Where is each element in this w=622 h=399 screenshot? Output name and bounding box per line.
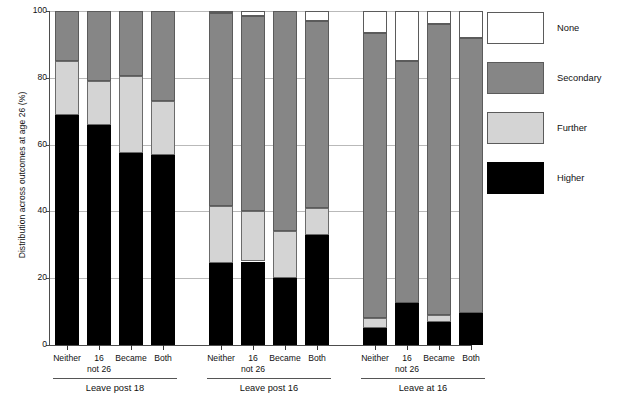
y-axis-tick-label: 100 bbox=[7, 5, 47, 15]
bar-segment-none bbox=[427, 11, 451, 24]
legend-item[interactable]: None bbox=[487, 12, 579, 44]
stacked-bar bbox=[151, 11, 175, 345]
bar-segment-none bbox=[459, 11, 483, 38]
bar-segment-further bbox=[427, 315, 451, 322]
group-label: Leave post 18 bbox=[45, 383, 185, 393]
y-axis-tick-label: 40 bbox=[7, 205, 47, 215]
x-axis-tick-mark bbox=[131, 345, 132, 350]
bar-segment-further bbox=[87, 81, 111, 124]
y-axis-tick-label: 0 bbox=[7, 339, 47, 349]
bar-segment-none bbox=[209, 11, 233, 13]
x-axis-tick-mark bbox=[407, 345, 408, 350]
bar-segment-higher bbox=[55, 115, 79, 345]
stacked-bar bbox=[241, 11, 265, 345]
bar-segment-secondary bbox=[273, 11, 297, 231]
legend-item[interactable]: Higher bbox=[487, 162, 584, 194]
bar-segment-higher bbox=[273, 278, 297, 345]
group-underline bbox=[361, 378, 485, 379]
bar-segment-higher bbox=[209, 263, 233, 345]
bar-segment-none bbox=[363, 11, 387, 33]
bar-segment-further bbox=[119, 76, 143, 153]
group-underline bbox=[207, 378, 331, 379]
stacked-bar bbox=[87, 11, 111, 345]
bar-segment-secondary bbox=[305, 21, 329, 208]
stacked-bar bbox=[119, 11, 143, 345]
x-axis-tick-mark bbox=[99, 345, 100, 350]
bar-segment-further bbox=[273, 231, 297, 278]
x-axis-tick-mark bbox=[253, 345, 254, 350]
bar-segment-secondary bbox=[363, 33, 387, 319]
x-axis-category-sublabel: not 26 bbox=[59, 364, 139, 374]
bar-segment-higher bbox=[395, 303, 419, 345]
y-axis-tick-label: 20 bbox=[7, 272, 47, 282]
group-underline bbox=[53, 378, 177, 379]
bar-segment-higher bbox=[151, 155, 175, 345]
bar-segment-higher bbox=[241, 262, 265, 346]
bar-segment-secondary bbox=[119, 11, 143, 76]
bar-segment-higher bbox=[87, 125, 111, 345]
x-axis-tick-mark bbox=[471, 345, 472, 350]
bar-segment-further bbox=[55, 61, 79, 114]
x-axis-tick-mark bbox=[439, 345, 440, 350]
bar-segment-secondary bbox=[87, 11, 111, 81]
bar-segment-none bbox=[241, 11, 265, 16]
bar-segment-secondary bbox=[151, 11, 175, 101]
x-axis-category-label: Both bbox=[431, 353, 511, 363]
legend-swatch-higher bbox=[487, 162, 544, 194]
x-axis-tick-mark bbox=[317, 345, 318, 350]
group-label: Leave at 16 bbox=[353, 383, 493, 393]
stacked-bar bbox=[209, 11, 233, 345]
bar-segment-further bbox=[305, 208, 329, 235]
bar-segment-secondary bbox=[395, 61, 419, 303]
bar-segment-none bbox=[395, 11, 419, 61]
legend-label: Higher bbox=[557, 173, 584, 183]
x-axis-category-sublabel: not 26 bbox=[367, 364, 447, 374]
bar-segment-higher bbox=[427, 322, 451, 345]
y-axis-tick-label: 80 bbox=[7, 72, 47, 82]
bar-segment-higher bbox=[119, 153, 143, 345]
bar-segment-further bbox=[241, 211, 265, 261]
bar-segment-secondary bbox=[55, 11, 79, 61]
bar-segment-none bbox=[305, 11, 329, 21]
x-axis-tick-mark bbox=[375, 345, 376, 350]
x-axis-tick-mark bbox=[163, 345, 164, 350]
stacked-bar bbox=[395, 11, 419, 345]
bar-segment-secondary bbox=[241, 16, 265, 211]
stacked-bar bbox=[55, 11, 79, 345]
legend-swatch-none bbox=[487, 12, 544, 44]
stacked-bar bbox=[363, 11, 387, 345]
legend-swatch-secondary bbox=[487, 62, 544, 94]
legend-label: Secondary bbox=[557, 73, 601, 83]
bar-segment-further bbox=[363, 318, 387, 328]
legend-swatch-further bbox=[487, 112, 544, 144]
bar-segment-secondary bbox=[459, 38, 483, 314]
legend-item[interactable]: Further bbox=[487, 112, 587, 144]
bar-segment-secondary bbox=[209, 13, 233, 207]
x-axis-tick-mark bbox=[285, 345, 286, 350]
stacked-bar bbox=[427, 11, 451, 345]
chart-figure: Distribution across outcomes at age 26 (… bbox=[0, 0, 622, 399]
legend-item[interactable]: Secondary bbox=[487, 62, 601, 94]
group-label: Leave post 16 bbox=[199, 383, 339, 393]
y-axis-tick-label: 60 bbox=[7, 139, 47, 149]
bar-segment-higher bbox=[459, 313, 483, 345]
bar-segment-further bbox=[151, 101, 175, 154]
bar-segment-higher bbox=[363, 328, 387, 345]
x-axis-tick-mark bbox=[67, 345, 68, 350]
y-axis-title: Distribution across outcomes at age 26 (… bbox=[17, 15, 27, 335]
bar-segment-further bbox=[209, 206, 233, 263]
bar-segment-secondary bbox=[427, 24, 451, 315]
legend-label: None bbox=[557, 23, 579, 33]
bar-segment-higher bbox=[305, 235, 329, 345]
x-axis-category-sublabel: not 26 bbox=[213, 364, 293, 374]
legend-label: Further bbox=[557, 123, 587, 133]
stacked-bar bbox=[305, 11, 329, 345]
stacked-bar bbox=[459, 11, 483, 345]
stacked-bar bbox=[273, 11, 297, 345]
x-axis-tick-mark bbox=[221, 345, 222, 350]
